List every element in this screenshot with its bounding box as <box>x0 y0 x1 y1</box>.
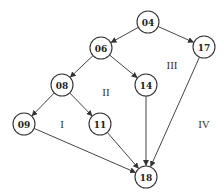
node-label: 04 <box>142 18 155 28</box>
region-label-IV: IV <box>198 118 210 130</box>
node-label: 06 <box>95 44 108 54</box>
edge-08-to-09 <box>32 93 54 116</box>
edge-11-to-18 <box>107 132 138 168</box>
node-18: 18 <box>135 166 157 188</box>
node-17: 17 <box>193 36 215 58</box>
node-label: 09 <box>18 120 31 130</box>
node-14: 14 <box>135 74 157 96</box>
edge-06-to-14 <box>109 55 137 78</box>
edge-04-to-06 <box>111 27 138 42</box>
node-08: 08 <box>51 74 73 96</box>
node-label: 17 <box>198 43 211 53</box>
node-06: 06 <box>90 37 112 59</box>
edge-09-to-18 <box>34 128 135 172</box>
node-11: 11 <box>89 113 111 135</box>
edge-04-to-17 <box>158 26 193 42</box>
region-label-II: II <box>102 86 110 98</box>
node-09: 09 <box>13 113 35 135</box>
node-label: 14 <box>140 81 153 91</box>
node-label: 08 <box>56 81 69 91</box>
edge-17-to-18 <box>151 57 200 166</box>
edges-layer <box>32 26 199 172</box>
nodes-layer: 0406170814091118 <box>13 11 215 188</box>
directed-graph: 0406170814091118 IIIIIIIV <box>0 0 224 195</box>
regions-layer: IIIIIIIV <box>60 59 210 130</box>
region-label-III: III <box>167 59 178 71</box>
region-label-I: I <box>60 118 64 130</box>
node-label: 11 <box>94 120 107 130</box>
edge-06-to-08 <box>70 56 93 78</box>
edge-08-to-11 <box>70 93 92 116</box>
node-label: 18 <box>140 173 153 183</box>
node-04: 04 <box>137 11 159 33</box>
